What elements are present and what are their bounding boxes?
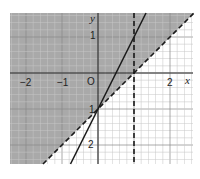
inequality-graph (0, 0, 200, 179)
y-tick-label: 2 (88, 140, 94, 150)
y-tick-label: 1 (90, 31, 96, 41)
x-axis-label: x (185, 75, 190, 86)
x-tick-label: 2 (167, 78, 173, 88)
x-tick-label: −1 (57, 78, 68, 88)
origin-label: O (87, 77, 95, 87)
y-tick-label: 1 (89, 105, 95, 115)
y-axis-label: y (90, 13, 95, 24)
x-tick-label: −2 (20, 78, 31, 88)
